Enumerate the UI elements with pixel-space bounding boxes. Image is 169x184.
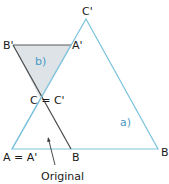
pointer-arrowhead-icon (47, 137, 50, 142)
label-c-eq-c-prime: C = C' (30, 94, 65, 107)
label-triangle-a: a) (120, 116, 131, 129)
label-b-mid: B (72, 151, 80, 164)
label-original: Original (41, 170, 84, 183)
original-pointer (49, 141, 55, 165)
label-triangle-b: b) (35, 55, 46, 68)
label-b-right: B (161, 146, 169, 159)
triangle-b (13, 45, 71, 100)
label-b-prime: B' (3, 39, 14, 52)
label-a-eq-a-prime: A = A' (3, 151, 37, 164)
label-c-prime-top: C' (82, 5, 93, 18)
label-a-prime: A' (72, 39, 83, 52)
diagram-canvas: C' B' A' b) C = C' a) A = A' B B Origina… (0, 0, 169, 184)
